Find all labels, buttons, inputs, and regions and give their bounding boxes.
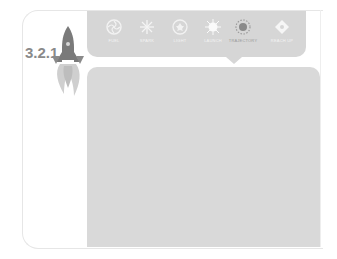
frame-edge [320,10,321,247]
main-nav: FUEL SPARK LIGHT LAUNCH TRAJECTORY REACH… [87,11,306,57]
nav-label: FUEL [97,38,131,43]
nav-item-trajectory[interactable]: TRAJECTORY [224,19,262,43]
nav-label: SPARK [130,38,164,43]
nav-label: TRAJECTORY [224,38,262,43]
nav-item-light[interactable]: LIGHT [163,19,197,43]
nav-item-reach-up[interactable]: REACH UP [265,19,299,43]
diamond-icon [274,19,290,35]
spark-icon [139,19,155,35]
target-icon [235,19,251,35]
content-panel [87,67,320,247]
nav-item-spark[interactable]: SPARK [130,19,164,43]
rocket-icon [52,26,84,98]
burst-icon [205,19,221,35]
nav-label: REACH UP [265,38,299,43]
nav-label: LIGHT [163,38,197,43]
swirl-icon [106,19,122,35]
nav-item-fuel[interactable]: FUEL [97,19,131,43]
active-pointer [226,57,242,64]
flower-icon [172,19,188,35]
